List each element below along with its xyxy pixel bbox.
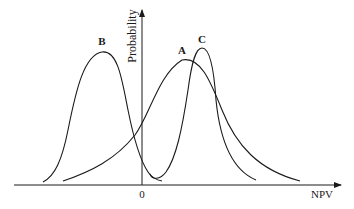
x-axis-label: NPV xyxy=(311,188,333,200)
diagram-canvas: Probability 0 NPV B A C xyxy=(0,0,354,209)
curve-b xyxy=(43,52,162,182)
curve-c xyxy=(150,48,256,180)
curve-a-label: A xyxy=(178,44,186,56)
y-axis-label: Probability xyxy=(125,9,139,62)
curve-b-label: B xyxy=(98,35,106,47)
curve-c-label: C xyxy=(198,33,206,45)
curve-a xyxy=(63,60,300,181)
npv-probability-diagram: Probability 0 NPV B A C xyxy=(0,0,354,209)
origin-label: 0 xyxy=(139,188,145,200)
